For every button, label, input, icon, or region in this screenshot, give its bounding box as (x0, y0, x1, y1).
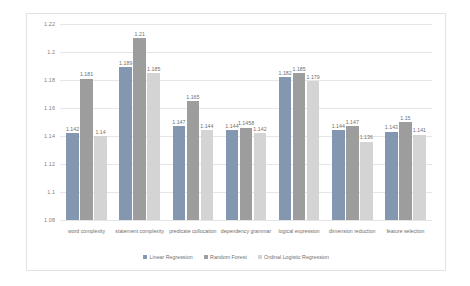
y-axis-tick-label: 1.14 (44, 133, 55, 139)
bar-value-label: 1.1458 (238, 120, 254, 126)
bar-group: 1.1891.211.185 (113, 24, 166, 220)
bar-value-label: 1.165 (186, 94, 199, 100)
legend-swatch-icon (143, 255, 147, 259)
bar-group: 1.1431.151.141 (379, 24, 432, 220)
bar-value-label: 1.143 (385, 124, 398, 130)
legend-swatch-icon (204, 255, 208, 259)
y-axis-tick-label: 1.12 (44, 161, 55, 167)
bar-value-label: 1.185 (293, 66, 306, 72)
bar-slot: 1.144 (332, 24, 345, 220)
bar-slot: 1.136 (360, 24, 373, 220)
bar[interactable] (360, 142, 373, 220)
bar-value-label: 1.21 (135, 31, 145, 37)
bar[interactable] (293, 73, 306, 220)
legend-label: Ordinal Logistic Regression (264, 254, 329, 260)
bar-group: 1.1441.14581.142 (219, 24, 272, 220)
chart-legend: Linear RegressionRandom ForestOrdinal Lo… (27, 254, 445, 260)
category-label: dimension reduction (326, 228, 379, 235)
bar[interactable] (346, 126, 359, 220)
category-label: predicate collocation (166, 228, 219, 235)
category-label: feature selection (379, 228, 432, 235)
bar[interactable] (240, 128, 253, 220)
bar[interactable] (201, 130, 214, 220)
y-axis-tick-label: 1.2 (47, 49, 55, 55)
bar-group: 1.1821.1851.179 (273, 24, 326, 220)
legend-label: Random Forest (210, 254, 247, 260)
chart-container: 1.221.21.181.161.141.121.11.08 1.1421.18… (26, 13, 446, 271)
bar-slot: 1.144 (201, 24, 214, 220)
bar[interactable] (307, 81, 320, 220)
bar-slot: 1.141 (413, 24, 426, 220)
bar-groups: 1.1421.1811.141.1891.211.1851.1471.1651.… (60, 24, 432, 220)
legend-item[interactable]: Ordinal Logistic Regression (258, 254, 329, 260)
bar-slot: 1.185 (293, 24, 306, 220)
bar[interactable] (279, 77, 292, 220)
bar-value-label: 1.15 (400, 115, 410, 121)
legend-item[interactable]: Linear Regression (143, 254, 193, 260)
bar-value-label: 1.147 (172, 119, 185, 125)
category-label: dependency grammar (219, 228, 272, 235)
bar[interactable] (133, 38, 146, 220)
bar-slot: 1.179 (307, 24, 320, 220)
bar-slot: 1.181 (80, 24, 93, 220)
bar-slot: 1.147 (173, 24, 186, 220)
bar-value-label: 1.144 (225, 123, 238, 129)
bar-value-label: 1.14 (95, 129, 105, 135)
y-axis-tick-label: 1.18 (44, 77, 55, 83)
bar-slot: 1.142 (66, 24, 79, 220)
bar-slot: 1.147 (346, 24, 359, 220)
bar-slot: 1.1458 (240, 24, 253, 220)
bar-value-label: 1.144 (200, 123, 213, 129)
category-label: logical expression (273, 228, 326, 235)
bar-value-label: 1.141 (413, 127, 426, 133)
bar-slot: 1.185 (147, 24, 160, 220)
bar-value-label: 1.189 (119, 60, 132, 66)
gridline (60, 220, 432, 221)
bar-group: 1.1471.1651.144 (166, 24, 219, 220)
legend-item[interactable]: Random Forest (204, 254, 247, 260)
bar-slot: 1.14 (94, 24, 107, 220)
bar-value-label: 1.144 (332, 123, 345, 129)
legend-label: Linear Regression (150, 254, 193, 260)
bar[interactable] (66, 133, 79, 220)
bar[interactable] (173, 126, 186, 220)
category-axis: word complexitystatement complexitypredi… (60, 228, 432, 235)
bar[interactable] (94, 136, 107, 220)
bar-value-label: 1.147 (346, 119, 359, 125)
bar[interactable] (226, 130, 239, 220)
bar[interactable] (187, 101, 200, 220)
bar-value-label: 1.142 (66, 126, 79, 132)
bar-value-label: 1.136 (360, 134, 373, 140)
bar[interactable] (80, 79, 93, 220)
bar-value-label: 1.181 (80, 71, 93, 77)
bar[interactable] (385, 132, 398, 220)
bar-group: 1.1441.1471.136 (326, 24, 379, 220)
bar[interactable] (147, 73, 160, 220)
y-axis-tick-label: 1.1 (47, 189, 55, 195)
category-label: statement complexity (113, 228, 166, 235)
y-axis-tick-label: 1.16 (44, 105, 55, 111)
bar-slot: 1.143 (385, 24, 398, 220)
y-axis-tick-label: 1.22 (44, 21, 55, 27)
category-label: word complexity (60, 228, 113, 235)
bar-value-label: 1.179 (307, 74, 320, 80)
bar-slot: 1.142 (254, 24, 267, 220)
bar[interactable] (399, 122, 412, 220)
bar-slot: 1.189 (119, 24, 132, 220)
bar-slot: 1.165 (187, 24, 200, 220)
bar[interactable] (254, 133, 267, 220)
bar-slot: 1.21 (133, 24, 146, 220)
bar-slot: 1.144 (226, 24, 239, 220)
bar-value-label: 1.185 (147, 66, 160, 72)
bar[interactable] (332, 130, 345, 220)
plot-area: 1.221.21.181.161.141.121.11.08 1.1421.18… (60, 24, 432, 220)
bar-value-label: 1.182 (279, 70, 292, 76)
bar-slot: 1.15 (399, 24, 412, 220)
bar[interactable] (119, 67, 132, 220)
bar-slot: 1.182 (279, 24, 292, 220)
bar-value-label: 1.142 (253, 126, 266, 132)
legend-swatch-icon (258, 255, 262, 259)
y-axis-tick-label: 1.08 (44, 217, 55, 223)
bar-group: 1.1421.1811.14 (60, 24, 113, 220)
bar[interactable] (413, 135, 426, 220)
